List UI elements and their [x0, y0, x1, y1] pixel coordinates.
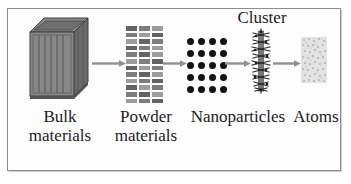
- arrow-nano-to-cluster: [225, 58, 251, 69]
- label-nanoparticles: Nanoparticles: [176, 107, 300, 126]
- nanoparticle-dots-icon: [186, 36, 228, 94]
- powder-grid-icon: [126, 26, 163, 102]
- arrow-powder-to-nano: [163, 58, 187, 69]
- cluster-fuzz-icon: [250, 28, 272, 94]
- label-bulk-materials: Bulk materials: [18, 107, 102, 145]
- label-cluster: Cluster: [226, 8, 298, 27]
- bulk-box-3d-icon: [28, 16, 90, 100]
- arrow-bulk-to-powder: [92, 58, 126, 69]
- material-size-progression-diagram: Cluster Bulk materials Powder materials …: [0, 0, 351, 184]
- arrow-cluster-to-atoms: [273, 58, 301, 69]
- atoms-speckle-icon: [300, 36, 328, 84]
- label-atoms: Atoms: [286, 107, 346, 126]
